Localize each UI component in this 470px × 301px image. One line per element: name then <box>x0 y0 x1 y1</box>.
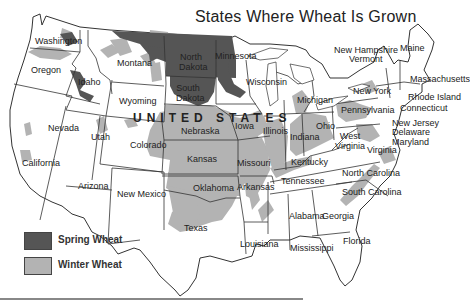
state-label-florida: Florida <box>343 237 371 246</box>
spring-wheat-swatch <box>24 232 52 250</box>
state-label-massachusetts: Massachusetts <box>410 75 470 84</box>
state-label-oregon: Oregon <box>31 66 61 75</box>
country-label: UNITED STATES <box>133 112 292 124</box>
state-label-south-dakota: South Dakota <box>176 83 200 103</box>
state-label-arizona: Arizona <box>78 182 109 191</box>
state-label-idaho: Idaho <box>78 78 101 87</box>
state-label-montana: Montana <box>117 59 152 68</box>
state-label-new-mexico: New Mexico <box>117 190 166 199</box>
state-label-illinois: Illinois <box>263 127 288 136</box>
state-label-iowa: Iowa <box>235 122 254 131</box>
state-label-pennsylvania: Pennsylvania <box>341 106 395 115</box>
state-label-rhode-island: Rhode Island <box>408 93 461 102</box>
state-label-west-virginia: West Virginia <box>333 131 367 151</box>
state-label-washington: Washington <box>35 37 82 46</box>
state-label-maryland: Maryland <box>392 138 429 147</box>
state-label-connecticut: Connecticut <box>400 104 448 113</box>
map-title: States Where Wheat Is Grown <box>195 8 416 26</box>
state-label-tennessee: Tennessee <box>281 177 325 186</box>
state-label-nebraska: Nebraska <box>181 127 220 136</box>
state-label-colorado: Colorado <box>130 141 167 150</box>
state-label-oklahoma: Oklahoma <box>193 184 234 193</box>
state-label-kansas: Kansas <box>187 155 217 164</box>
state-label-california: California <box>22 159 60 168</box>
state-label-north-carolina: North Carolina <box>342 169 400 178</box>
state-label-north-dakota: North Dakota <box>179 52 203 72</box>
state-label-missouri: Missouri <box>237 159 271 168</box>
state-label-new-york: New York <box>353 87 391 96</box>
state-label-louisiana: Louisiana <box>240 240 279 249</box>
state-label-michigan: Michigan <box>297 96 333 105</box>
state-label-nevada: Nevada <box>48 124 79 133</box>
state-label-texas: Texas <box>184 224 208 233</box>
legend-label: Spring Wheat <box>58 234 122 245</box>
state-label-kentucky: Kentucky <box>291 158 328 167</box>
state-label-new-hampshire: New Hampshire <box>334 46 398 55</box>
state-label-maine: Maine <box>400 44 425 53</box>
state-label-arkansas: Arkansas <box>237 183 275 192</box>
state-label-georgia: Georgia <box>322 212 354 221</box>
state-label-virginia: Virginia <box>367 146 397 155</box>
bottom-rule <box>0 298 303 300</box>
state-label-south-carolina: South Carolina <box>342 188 402 197</box>
state-label-delaware: Delaware <box>392 128 430 137</box>
state-label-wyoming: Wyoming <box>119 97 156 106</box>
state-label-wisconsin: Wisconsin <box>246 78 287 87</box>
state-label-ohio: Ohio <box>316 122 335 131</box>
state-label-vermont: Vermont <box>349 55 383 64</box>
winter-wheat-swatch <box>24 257 52 275</box>
state-label-alabama: Alabama <box>289 212 325 221</box>
state-label-mississippi: Mississippi <box>290 244 334 253</box>
state-label-utah: Utah <box>91 133 110 142</box>
legend-label: Winter Wheat <box>58 259 122 270</box>
state-label-minnesota: Minnesota <box>215 52 257 61</box>
state-label-indiana: Indiana <box>290 133 320 142</box>
